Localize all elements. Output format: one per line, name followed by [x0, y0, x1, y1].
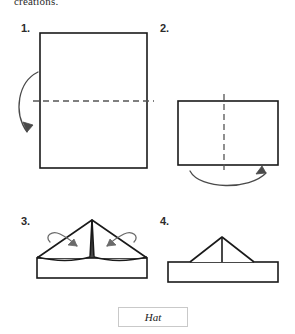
origami-instruction-page: creations. 1. 2. 3. 4.	[0, 0, 295, 334]
origami-diagram	[0, 0, 295, 334]
step-3-left-flap	[37, 220, 92, 258]
caption-box: Hat	[118, 307, 188, 327]
step-3-right-flap	[92, 220, 147, 258]
caption-label: Hat	[145, 311, 162, 323]
step-4-brim	[168, 262, 278, 282]
step-3-brim	[37, 258, 147, 278]
step-4-figure	[168, 237, 278, 282]
step-1-fold-arrow	[19, 72, 38, 132]
step-3-figure	[37, 220, 147, 278]
step-2-fold-arrowhead	[256, 166, 266, 174]
step-2-fold-arrow	[190, 171, 266, 186]
step-1-figure	[19, 33, 154, 168]
step-2-figure	[178, 94, 278, 186]
step-2-paper-rect	[178, 101, 278, 165]
